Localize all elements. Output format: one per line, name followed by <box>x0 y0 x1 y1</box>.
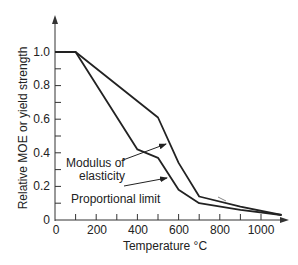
pl-arrow-icon <box>124 178 167 186</box>
y-tick-label: 0.6 <box>33 112 50 126</box>
y-tick-label: 1.0 <box>33 45 50 59</box>
x-tick-label: 600 <box>169 223 189 237</box>
x-tick-labels: 0 200 400 600 800 1000 <box>53 223 275 237</box>
x-axis-title: Temperature °C <box>123 239 207 253</box>
x-tick-label: 400 <box>128 223 148 237</box>
y-axis-title: Relative MOE or yield strength <box>16 47 30 210</box>
x-tick-label: 1000 <box>248 223 275 237</box>
x-tick-label: 800 <box>210 223 230 237</box>
y-tick-label: 0.8 <box>33 78 50 92</box>
moe-label: elasticity <box>79 169 125 183</box>
modulus-of-elasticity-line <box>55 52 282 215</box>
moe-arrow-icon <box>123 144 166 160</box>
y-axis-arrow-icon <box>52 15 58 24</box>
y-ticks <box>55 52 61 203</box>
y-tick-label: 0 <box>43 213 50 227</box>
data-series <box>55 52 282 215</box>
pl-label: Proportional limit <box>71 192 161 206</box>
x-ticks <box>76 214 261 220</box>
x-tick-label: 200 <box>87 223 107 237</box>
y-tick-label: 0.2 <box>33 179 50 193</box>
chart: 0 0.2 0.4 0.6 0.8 1.0 0 200 400 600 800 … <box>0 0 298 265</box>
x-axis-arrow-icon <box>280 217 289 223</box>
small-arrow-mark-icon <box>218 197 226 201</box>
proportional-limit-line <box>55 52 282 215</box>
y-tick-labels: 0 0.2 0.4 0.6 0.8 1.0 <box>33 45 50 227</box>
y-tick-label: 0.4 <box>33 146 50 160</box>
x-tick-label: 0 <box>53 223 60 237</box>
moe-label: Modulus of <box>66 156 125 170</box>
